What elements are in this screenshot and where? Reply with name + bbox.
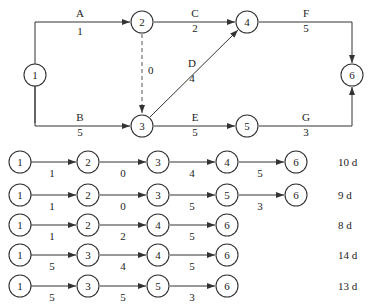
path-row-3: 1 2 5 1 2 4 6 8 d	[9, 214, 352, 242]
path-list: 1 0 4 5 1 2 3 4 6 10 d 1 0 5 3 1 2 3 5 6…	[9, 151, 358, 303]
path-row-4: 5 4 5 1 3 4 6 14 d	[9, 244, 358, 272]
svg-text:3: 3	[155, 156, 161, 168]
svg-text:1: 1	[49, 230, 55, 242]
svg-text:1: 1	[49, 167, 55, 179]
network-node-5: 5	[236, 115, 258, 137]
svg-text:5: 5	[189, 230, 195, 242]
svg-text:0: 0	[120, 167, 126, 179]
activity-f-name: F	[303, 7, 309, 19]
network-node-1: 1	[24, 64, 46, 86]
activity-g-name: G	[302, 111, 310, 123]
network-node-4: 4	[236, 11, 258, 33]
activity-e-duration: 5	[192, 126, 198, 138]
svg-text:6: 6	[349, 69, 355, 81]
svg-text:6: 6	[293, 156, 299, 168]
svg-text:1: 1	[17, 156, 23, 168]
svg-text:1: 1	[17, 189, 23, 201]
svg-text:4: 4	[120, 260, 126, 272]
path-total: 13 d	[338, 280, 358, 292]
activity-c-name: C	[191, 7, 198, 19]
svg-text:5: 5	[224, 189, 230, 201]
svg-text:5: 5	[257, 167, 263, 179]
svg-text:4: 4	[155, 249, 161, 261]
svg-text:6: 6	[293, 189, 299, 201]
path-row-2: 1 0 5 3 1 2 3 5 6 9 d	[9, 184, 352, 212]
svg-text:5: 5	[189, 200, 195, 212]
activity-a-arrow	[35, 22, 130, 123]
activity-b-name: B	[76, 111, 83, 123]
svg-text:5: 5	[189, 260, 195, 272]
path-total: 14 d	[338, 249, 358, 261]
svg-text:5: 5	[244, 120, 250, 132]
svg-text:5: 5	[120, 291, 126, 303]
svg-text:3: 3	[85, 280, 91, 292]
svg-text:1: 1	[32, 69, 38, 81]
svg-text:0: 0	[120, 200, 126, 212]
svg-text:3: 3	[257, 200, 263, 212]
svg-text:4: 4	[155, 219, 161, 231]
activity-a-name: A	[76, 7, 84, 19]
main-network: A 1 B 5 0 C 2 D 4 E 5 F 5 G 3 1 2 3 4 5	[24, 7, 363, 138]
activity-d-name: D	[188, 57, 196, 69]
svg-text:5: 5	[49, 291, 55, 303]
svg-text:3: 3	[139, 120, 145, 132]
svg-text:3: 3	[189, 291, 195, 303]
svg-text:2: 2	[85, 156, 91, 168]
activity-f-duration: 5	[303, 22, 309, 34]
dummy-activity-duration: 0	[148, 64, 154, 76]
svg-text:4: 4	[189, 167, 195, 179]
path-total: 9 d	[338, 189, 352, 201]
svg-text:4: 4	[224, 156, 230, 168]
activity-g-duration: 3	[303, 126, 309, 138]
activity-a-duration: 1	[77, 25, 83, 37]
svg-text:6: 6	[224, 280, 230, 292]
svg-text:3: 3	[155, 189, 161, 201]
svg-text:1: 1	[17, 219, 23, 231]
activity-d-duration: 4	[189, 72, 195, 84]
svg-text:2: 2	[85, 189, 91, 201]
svg-text:1: 1	[49, 200, 55, 212]
svg-text:5: 5	[49, 260, 55, 272]
svg-text:2: 2	[139, 16, 145, 28]
svg-text:1: 1	[17, 280, 23, 292]
svg-text:2: 2	[85, 219, 91, 231]
network-node-2: 2	[131, 11, 153, 33]
svg-text:6: 6	[224, 249, 230, 261]
svg-text:3: 3	[85, 249, 91, 261]
svg-text:2: 2	[120, 230, 126, 242]
activity-e-name: E	[192, 111, 199, 123]
svg-text:4: 4	[244, 16, 250, 28]
svg-text:5: 5	[155, 280, 161, 292]
path-total: 8 d	[338, 219, 352, 231]
svg-text:1: 1	[17, 249, 23, 261]
path-total: 10 d	[338, 156, 358, 168]
path-row-1: 1 0 4 5 1 2 3 4 6 10 d	[9, 151, 358, 179]
path-row-5: 5 5 3 1 3 5 6 13 d	[9, 275, 358, 303]
network-node-3: 3	[131, 115, 153, 137]
network-node-6: 6	[341, 64, 363, 86]
activity-c-duration: 2	[192, 22, 198, 34]
svg-text:6: 6	[224, 219, 230, 231]
network-diagram: A 1 B 5 0 C 2 D 4 E 5 F 5 G 3 1 2 3 4 5	[0, 0, 369, 307]
activity-b-duration: 5	[77, 126, 83, 138]
